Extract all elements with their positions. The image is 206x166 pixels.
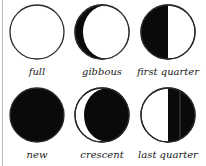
last-quarter-moon-icon xyxy=(139,86,197,144)
gibbous-moon-icon xyxy=(73,3,131,61)
phase-label: last quarter xyxy=(135,149,201,160)
phase-label: gibbous xyxy=(69,66,135,77)
phase-label: full xyxy=(4,66,70,77)
phase-label: new xyxy=(4,149,70,160)
phase-full: full xyxy=(4,3,70,77)
phase-first-quarter: first quarter xyxy=(135,3,201,77)
phase-new: new xyxy=(4,86,70,160)
crescent-moon-icon xyxy=(73,86,131,144)
phase-gibbous: gibbous xyxy=(69,3,135,77)
first-quarter-moon-icon xyxy=(139,3,197,61)
left-border xyxy=(2,0,3,166)
new-moon-icon xyxy=(8,86,66,144)
phase-label: first quarter xyxy=(135,66,201,77)
phase-crescent: crescent xyxy=(69,86,135,160)
phase-last-quarter: last quarter xyxy=(135,86,201,160)
phase-label: crescent xyxy=(69,149,135,160)
full-moon-icon xyxy=(8,3,66,61)
